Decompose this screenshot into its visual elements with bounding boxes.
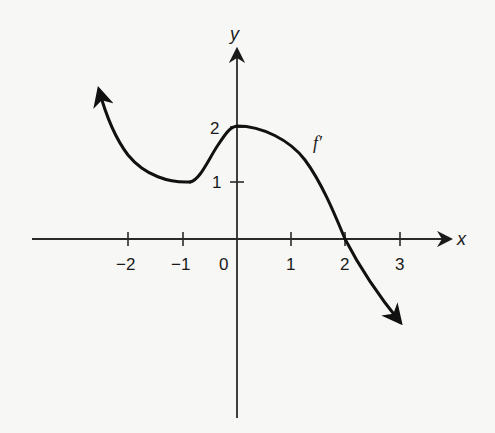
x-tick-label-1: 1 <box>286 255 295 274</box>
x-tick-label-0: 0 <box>219 255 228 274</box>
y-tick-label-1: 1 <box>212 173 221 192</box>
curve-label-f-prime: f′ <box>313 133 323 153</box>
curve-f-prime <box>99 90 190 182</box>
chart-svg: −2 −1 0 1 2 3 1 2 x y f′ <box>0 0 495 433</box>
x-axis-label: x <box>456 229 467 249</box>
y-axis-label: y <box>228 24 240 44</box>
y-tick-label-2: 2 <box>210 119 219 138</box>
chart-figure: −2 −1 0 1 2 3 1 2 x y f′ <box>0 0 495 433</box>
x-tick-label-neg1: −1 <box>171 255 190 274</box>
x-tick-label-neg2: −2 <box>116 255 135 274</box>
x-tick-label-2: 2 <box>340 255 349 274</box>
curve-f-prime-main <box>190 126 400 322</box>
x-tick-label-3: 3 <box>395 255 404 274</box>
